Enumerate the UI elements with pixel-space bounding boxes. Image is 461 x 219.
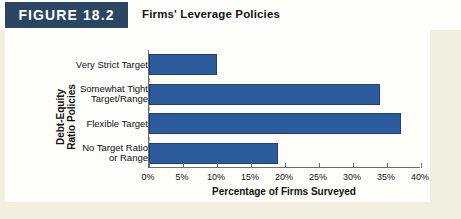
y-axis-tick — [149, 137, 150, 141]
x-axis-title: Percentage of Firms Surveyed — [148, 186, 420, 197]
x-axis-tick-label: 25% — [303, 172, 333, 182]
figure-number-label: FIGURE 18.2 — [18, 7, 114, 23]
bar-fill — [149, 113, 401, 134]
bar-fill — [149, 54, 217, 75]
category-label-line: Target/Range — [48, 94, 148, 105]
x-axis-tick — [217, 163, 218, 168]
x-axis-tick — [319, 163, 320, 168]
figure-title: Firms' Leverage Policies — [142, 8, 280, 20]
x-axis-tick-label: 10% — [201, 172, 231, 182]
x-axis-tick — [353, 163, 354, 168]
category-label-line: or Range — [48, 153, 148, 164]
x-axis-tick-label: 20% — [269, 172, 299, 182]
category-label-2: Somewhat TightTarget/Range — [48, 84, 148, 105]
x-axis-tick — [285, 163, 286, 168]
bar-1 — [149, 54, 217, 75]
figure-number-badge: FIGURE 18.2 — [5, 2, 128, 28]
figure-container: FIGURE 18.2 Firms' Leverage Policies Deb… — [0, 0, 461, 219]
bar-4 — [149, 143, 278, 164]
category-label-3: Flexible Target — [48, 119, 148, 130]
x-axis-tick — [183, 163, 184, 168]
x-axis-tick — [421, 163, 422, 168]
x-axis-tick — [387, 163, 388, 168]
category-label-line: Flexible Target — [48, 119, 148, 130]
bar-fill — [149, 143, 278, 164]
x-axis-tick-label: 35% — [371, 172, 401, 182]
category-label-1: Very Strict Target — [48, 60, 148, 71]
plot-area — [148, 50, 420, 168]
x-axis-tick — [251, 163, 252, 168]
x-axis-tick — [149, 163, 150, 168]
category-axis-labels: Very Strict TargetSomewhat TightTarget/R… — [48, 50, 148, 168]
figure-header: FIGURE 18.2 Firms' Leverage Policies — [0, 0, 461, 30]
bar-fill — [149, 84, 380, 105]
category-label-4: No Target Ratioor Range — [48, 143, 148, 164]
bar-3 — [149, 113, 401, 134]
x-axis-tick-label: 5% — [167, 172, 197, 182]
bar-2 — [149, 84, 380, 105]
x-axis-tick-label: 40% — [405, 172, 435, 182]
chart-panel: Debt-Equity Ratio Policies Very Strict T… — [5, 30, 430, 202]
x-axis-tick-label: 0% — [133, 172, 163, 182]
y-axis-tick — [149, 107, 150, 111]
y-axis-tick — [149, 78, 150, 82]
x-axis-tick-label: 30% — [337, 172, 367, 182]
x-axis-tick-label: 15% — [235, 172, 265, 182]
category-label-line: Very Strict Target — [48, 60, 148, 71]
